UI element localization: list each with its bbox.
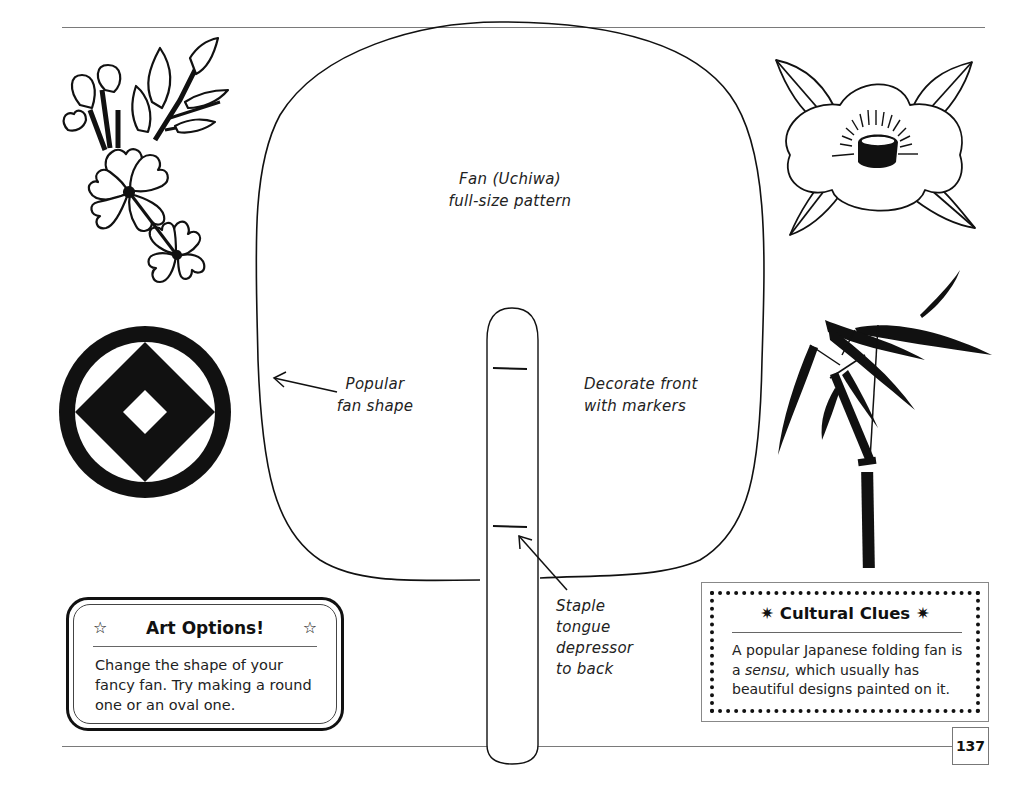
crest-illustration: [45, 315, 245, 515]
staple-label-line: Staple: [556, 596, 656, 617]
staple-label-line: to back: [556, 659, 656, 680]
page-number: 137: [952, 727, 989, 765]
art-options-title: Art Options!: [146, 618, 264, 638]
fan-shape-label-line1: Popular: [320, 373, 430, 395]
tongue-depressor: [487, 308, 538, 764]
emphasis-text: sensu,: [745, 662, 790, 678]
decorate-label-line1: Decorate front: [584, 373, 714, 395]
asterisk-icon: ✷: [760, 604, 774, 623]
decorate-label-line2: with markers: [584, 395, 714, 417]
camellia-illustration: [770, 50, 980, 240]
staple-label-line: tongue: [556, 617, 656, 638]
cultural-clues-title: Cultural Clues: [780, 604, 910, 623]
fan-shape-label: Popular fan shape: [320, 373, 430, 417]
art-options-divider: [93, 646, 317, 647]
staple-mark-top: [493, 368, 527, 369]
cultural-clues-box: ✷ Cultural Clues ✷ A popular Japanese fo…: [701, 582, 989, 722]
cherry-blossom-illustration: [50, 30, 250, 300]
star-icon: ☆: [303, 618, 317, 637]
staple-mark-bottom: [493, 526, 527, 527]
cultural-clues-body: A popular Japanese folding fan is a sens…: [732, 641, 972, 700]
cultural-clues-divider: [732, 632, 962, 633]
art-options-box: ☆ Art Options! ☆ Change the shape of you…: [66, 597, 344, 731]
art-options-body: Change the shape of your fancy fan. Try …: [95, 655, 325, 715]
pattern-title: Fan (Uchiwa) full-size pattern: [400, 168, 620, 212]
star-icon: ☆: [93, 618, 107, 637]
staple-label: Staple tongue depressor to back: [556, 596, 656, 680]
staple-label-line: depressor: [556, 638, 656, 659]
art-options-header: ☆ Art Options! ☆: [87, 618, 323, 638]
pattern-title-line2: full-size pattern: [400, 190, 620, 212]
asterisk-icon: ✷: [916, 604, 930, 623]
pattern-title-line1: Fan (Uchiwa): [400, 168, 620, 190]
cultural-clues-header: ✷ Cultural Clues ✷: [702, 604, 988, 623]
bamboo-illustration: [770, 260, 1000, 580]
decorate-label: Decorate front with markers: [584, 373, 714, 417]
fan-shape-label-line2: fan shape: [320, 395, 430, 417]
